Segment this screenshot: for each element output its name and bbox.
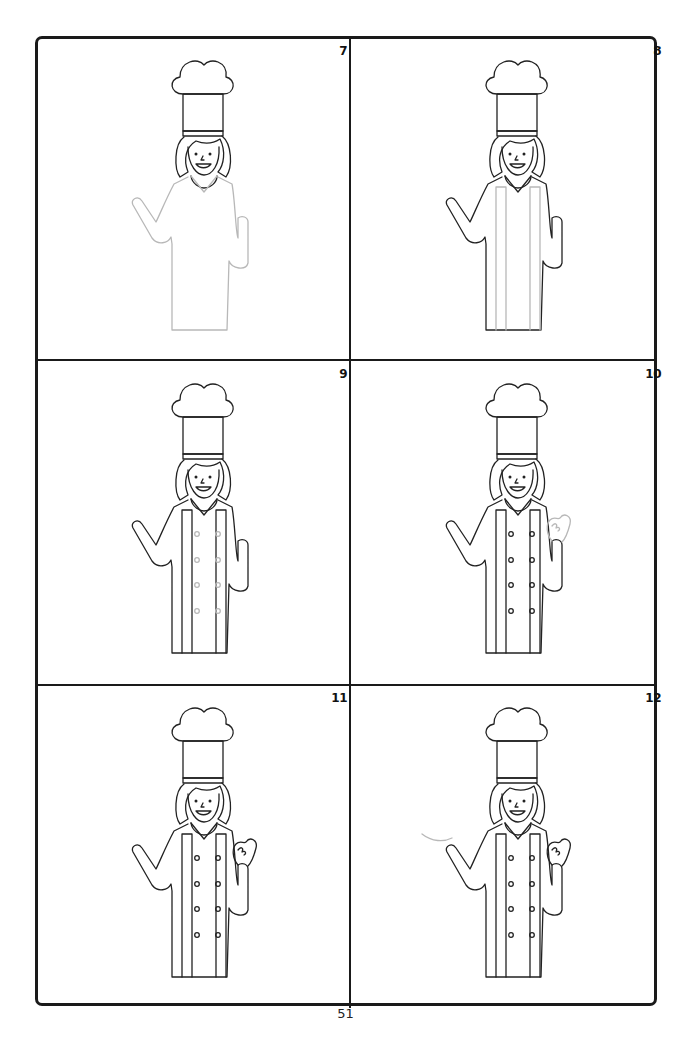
chef-drawing-step-8: [352, 39, 664, 361]
chef-body-outline: [446, 823, 562, 977]
chef-face-icon: [176, 459, 231, 511]
motion-line-icon: [422, 834, 452, 841]
chef-hat-icon: [486, 61, 547, 136]
step-panel-9: 9: [38, 362, 350, 684]
chef-face-icon: [490, 136, 545, 188]
step-panel-12: 12: [352, 686, 664, 1008]
chef-body-outline: [132, 499, 248, 653]
step-panel-11: 11: [38, 686, 350, 1008]
step-panel-7: 7: [38, 39, 350, 361]
chef-hat-icon: [486, 708, 547, 783]
jacket-placket: [496, 187, 540, 330]
chef-drawing-step-12: [352, 686, 664, 1008]
chef-face-icon: [490, 783, 545, 835]
chef-hat-icon: [172, 384, 233, 459]
waving-hand-icon: [233, 839, 256, 866]
chef-hat-icon: [486, 384, 547, 459]
chef-face-icon: [176, 783, 231, 835]
chef-drawing-step-9: [38, 362, 350, 684]
page-number: 51: [0, 1006, 691, 1021]
chef-body-outline: [132, 176, 248, 330]
step-panel-8: 8: [352, 39, 664, 361]
chef-body-outline: [446, 176, 562, 330]
chef-face-icon: [176, 136, 231, 188]
chef-body-outline: [446, 499, 562, 653]
waving-hand-icon: [547, 839, 570, 866]
chef-face-icon: [490, 459, 545, 511]
step-panel-10: 10: [352, 362, 664, 684]
chef-hat-icon: [172, 708, 233, 783]
chef-body-outline: [132, 823, 248, 977]
waving-hand-icon: [547, 515, 570, 542]
chef-hat-icon: [172, 61, 233, 136]
chef-drawing-step-11: [38, 686, 350, 1008]
chef-drawing-step-7: [38, 39, 350, 361]
chef-drawing-step-10: [352, 362, 664, 684]
